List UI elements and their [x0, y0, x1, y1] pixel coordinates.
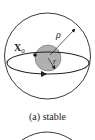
- rho-arrow: [50, 29, 75, 55]
- figure-caption: (a) stable: [0, 111, 95, 122]
- initial-point-label: X0: [14, 42, 25, 55]
- next-figure-arc: [22, 132, 72, 140]
- initial-point-marker: [33, 53, 37, 57]
- rho-label: ρ: [55, 29, 61, 40]
